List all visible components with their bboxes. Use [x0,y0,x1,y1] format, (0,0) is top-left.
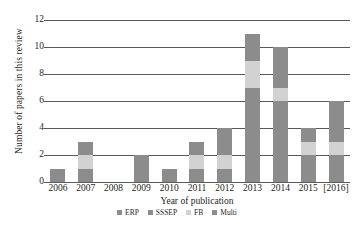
y-axis-tick-label: 4 [18,123,44,133]
stacked-bar[interactable] [162,169,177,183]
bar-slot [294,20,322,182]
y-axis-tick-label: 2 [18,150,44,160]
y-axis-tick-label: 6 [18,96,44,106]
bar-slot [183,20,211,182]
plot-area [44,20,350,182]
bar-segment-erp[interactable] [329,155,344,182]
bar-segment-erp[interactable] [162,169,177,183]
bar-segment-fb[interactable] [189,155,204,169]
publication-year-bar-chart: Number of papers in this review 02468101… [0,0,354,227]
legend-label: Multi [220,209,237,217]
bar-segment-multi[interactable] [245,34,260,61]
bar-segment-erp[interactable] [189,169,204,183]
bar-slot [72,20,100,182]
legend-item[interactable]: ERP [117,209,139,217]
y-axis-tick-label: 10 [18,42,44,52]
x-axis-tick-label: [2016] [322,184,350,194]
bar-slot [100,20,128,182]
bar-segment-erp[interactable] [301,155,316,182]
bar-group [44,20,350,182]
legend-label: SSSEP [156,209,177,217]
stacked-bar[interactable] [273,47,288,182]
x-axis-tick-label: 2006 [44,184,72,194]
bar-segment-multi[interactable] [273,47,288,88]
bar-segment-multi[interactable] [189,142,204,156]
legend-label: ERP [125,209,139,217]
bar-segment-erp[interactable] [134,155,149,182]
bar-segment-multi[interactable] [78,142,93,156]
bar-segment-erp[interactable] [78,169,93,183]
stacked-bar[interactable] [329,101,344,182]
chart-legend: ERPSSSEPFBMulti [0,209,354,217]
x-axis-tick-label: 2011 [183,184,211,194]
x-axis-tick-label: 2007 [72,184,100,194]
stacked-bar[interactable] [50,169,65,183]
bar-slot [44,20,72,182]
legend-swatch-icon [148,210,153,215]
bar-segment-multi[interactable] [301,128,316,142]
stacked-bar[interactable] [301,128,316,182]
legend-swatch-icon [186,210,191,215]
stacked-bar[interactable] [217,128,232,182]
bar-segment-fb[interactable] [301,142,316,156]
y-axis-tick-label: 0 [18,177,44,187]
x-axis-tick-label: 2008 [100,184,128,194]
legend-item[interactable]: Multi [212,209,237,217]
stacked-bar[interactable] [134,155,149,182]
bar-segment-fb[interactable] [217,155,232,169]
bar-slot [155,20,183,182]
legend-item[interactable]: SSSEP [148,209,177,217]
x-axis-tick-label: 2009 [127,184,155,194]
x-axis-tick-label: 2012 [211,184,239,194]
y-axis-tick-label: 12 [18,15,44,25]
legend-swatch-icon [117,210,122,215]
bar-segment-fb[interactable] [78,155,93,169]
stacked-bar[interactable] [189,142,204,183]
stacked-bar[interactable] [245,34,260,183]
x-axis-title: Year of publication [44,196,350,206]
bar-segment-fb[interactable] [273,88,288,102]
bar-segment-multi[interactable] [329,101,344,142]
bar-slot [322,20,350,182]
bar-slot [239,20,267,182]
x-axis-tick-labels: 2006200720082009201020112012201320142015… [44,184,350,194]
bar-segment-erp[interactable] [245,88,260,183]
stacked-bar[interactable] [78,142,93,183]
x-axis-tick-label: 2010 [155,184,183,194]
legend-swatch-icon [212,210,217,215]
x-axis-tick-label: 2013 [239,184,267,194]
x-axis-tick-label: 2014 [267,184,295,194]
bar-segment-multi[interactable] [217,128,232,155]
legend-label: FB [194,209,203,217]
bar-segment-fb[interactable] [245,61,260,88]
bar-slot [267,20,295,182]
bar-segment-erp[interactable] [273,101,288,182]
y-axis-tick-label: 8 [18,69,44,79]
legend-item[interactable]: FB [186,209,203,217]
x-axis-tick-label: 2015 [294,184,322,194]
bar-slot [211,20,239,182]
bar-segment-fb[interactable] [329,142,344,156]
bar-segment-erp[interactable] [217,169,232,183]
bar-segment-erp[interactable] [50,169,65,183]
bar-slot [127,20,155,182]
